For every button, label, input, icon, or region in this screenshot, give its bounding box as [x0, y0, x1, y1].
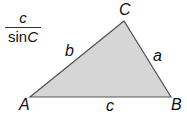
- vertex-label-c: C: [119, 2, 131, 18]
- vertex-label-b: B: [171, 97, 182, 113]
- triangle-abc: [30, 21, 171, 97]
- side-label-c: c: [106, 98, 114, 114]
- side-label-a: a: [153, 48, 162, 64]
- vertex-label-a: A: [19, 97, 30, 113]
- side-label-b: b: [65, 43, 74, 59]
